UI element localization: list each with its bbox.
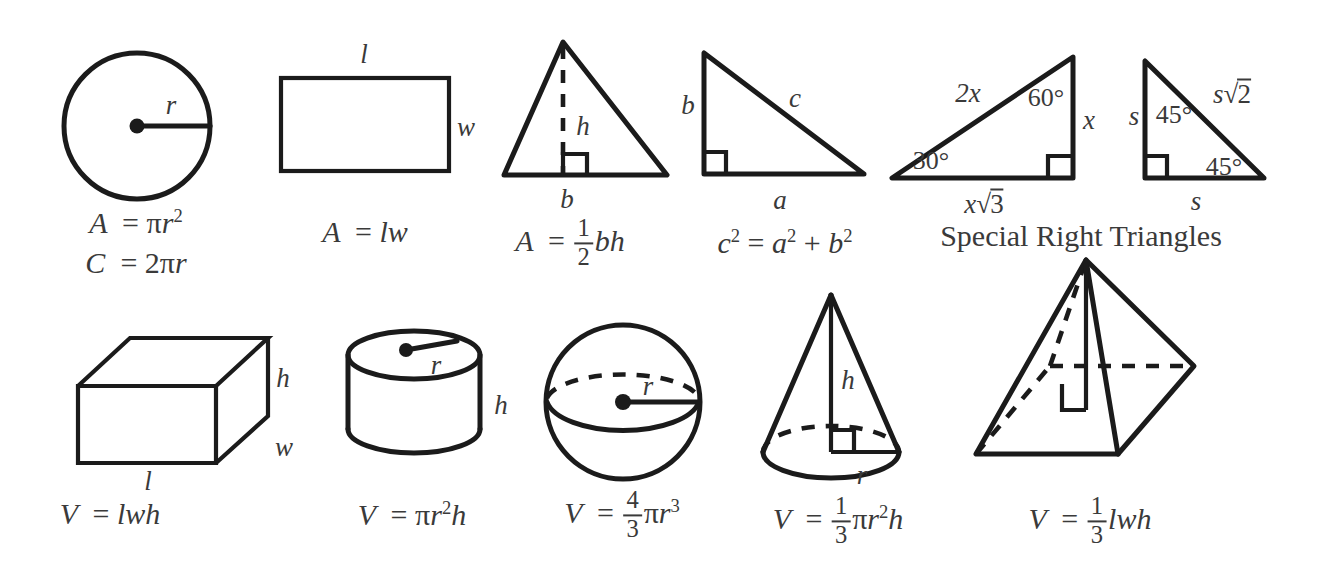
rectangle-width-label: w	[457, 114, 475, 141]
cylinder-radius-label: r	[431, 352, 442, 379]
triangle-height-label: h	[576, 113, 590, 140]
cone-radius-label: r	[857, 462, 868, 489]
triangle-30-60-90-leg-x-label: x	[1083, 107, 1095, 134]
cylinder-volume-formula: V = πr2h	[358, 499, 466, 530]
cylinder-height-label: h	[494, 392, 508, 419]
right-triangle-leg-b-label: b	[681, 92, 695, 119]
triangle-30-60-90-angle-30-label: 30°	[913, 148, 949, 174]
circle-radius-label: r	[166, 92, 177, 119]
special-right-triangles-heading: Special Right Triangles	[940, 221, 1222, 251]
cone-volume-formula: V = 13πr2h	[773, 495, 904, 548]
triangle-45-45-90-leg-left-label: s	[1129, 103, 1140, 130]
cone-height-label: h	[841, 367, 855, 394]
circle-figure	[45, 32, 235, 222]
circle-area-formula: A = πr2	[89, 207, 182, 238]
pyramid-volume-formula: V = 13lwh	[1029, 495, 1152, 548]
right-triangle-figure	[697, 46, 872, 186]
right-triangle-leg-a-label: a	[773, 187, 787, 214]
triangle-45-45-90-angle-bottom-label: 45°	[1206, 154, 1242, 180]
prism-width-label: w	[275, 434, 293, 461]
sphere-volume-formula: V = 43πr3	[564, 489, 680, 542]
triangle-30-60-90-leg-xsqrt3-label: x√3	[964, 189, 1003, 218]
triangle-45-45-90-hypotenuse-label: s√2	[1213, 79, 1251, 108]
triangle-45-45-90-leg-bottom-label: s	[1191, 188, 1202, 215]
prism-length-label: l	[144, 468, 152, 495]
geometry-formula-sheet: r A = πr2 C = 2πr l w A = lw h b A = 12b…	[0, 0, 1323, 573]
rectangle-area-formula: A = lw	[322, 217, 408, 247]
pythagorean-theorem-formula: c2 = a2 + b2	[717, 227, 852, 258]
cylinder-figure	[340, 325, 490, 465]
prism-height-label: h	[276, 365, 290, 392]
rectangle-length-label: l	[360, 41, 368, 68]
sphere-radius-label: r	[643, 373, 654, 400]
triangle-30-60-90-hypotenuse-label: 2x	[955, 80, 980, 107]
circle-circumference-formula: C = 2πr	[85, 248, 186, 278]
triangle-base-label: b	[560, 186, 574, 213]
triangle-area-formula: A = 12bh	[515, 217, 625, 270]
triangle-45-45-90-angle-top-label: 45°	[1156, 102, 1192, 128]
rectangle-figure	[278, 75, 458, 180]
sphere-figure	[540, 318, 710, 488]
triangle-30-60-90-angle-60-label: 60°	[1028, 85, 1064, 111]
right-triangle-hypotenuse-label: c	[789, 85, 801, 112]
rectangular-prism-figure	[70, 330, 280, 475]
prism-volume-formula: V = lwh	[60, 499, 161, 529]
cone-figure	[748, 288, 918, 478]
pyramid-figure	[962, 250, 1207, 465]
